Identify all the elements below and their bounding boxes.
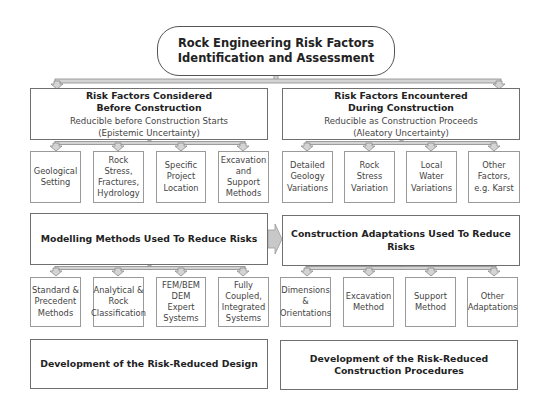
factor-label: Other Factors, e.g. Karst [473, 160, 515, 194]
title-line-1: Rock Engineering Risk Factors [178, 36, 374, 51]
method-label: Standard & Precedent Methods [31, 285, 80, 319]
before-construction-box: Risk Factors Considered Before Construct… [30, 88, 268, 140]
method-box: Fully Coupled, Integrated Systems [218, 277, 269, 327]
adaptation-label: Other Adaptations [467, 291, 519, 313]
factor-box: Local Water Variations [406, 151, 457, 203]
right-arrow-icon [268, 224, 282, 254]
method-box: Standard & Precedent Methods [30, 277, 81, 327]
factor-label: Rock Stress, Fractures, Hydrology [96, 155, 140, 200]
factor-box: Rock Stress Variation [344, 151, 395, 203]
adaptation-box: Excavation Method [343, 277, 394, 327]
factor-label: Local Water Variations [407, 160, 456, 194]
during-construction-title-1: Risk Factors Encountered [334, 90, 467, 103]
risk-reduced-design-title: Development of the Risk-Reduced Design [40, 358, 258, 371]
adaptation-label: Dimensions & Orientations [279, 285, 332, 319]
factor-box: Excavation and Support Methods [218, 151, 269, 203]
factor-box: Detailed Geology Variations [282, 151, 333, 203]
risk-reduced-procedures-box: Development of the Risk-Reduced Construc… [280, 340, 518, 390]
during-construction-sub-2: (Aleatory Uncertainty) [353, 127, 449, 139]
risk-reduced-procedures-title: Development of the Risk-Reduced Construc… [310, 353, 488, 378]
adaptation-box: Dimensions & Orientations [280, 277, 331, 327]
method-label: Analytical & Rock Classification [90, 285, 147, 319]
during-construction-sub-1: Reducible as Construction Proceeds [324, 115, 478, 127]
construction-adaptations-box: Construction Adaptations Used To Reduce … [282, 215, 520, 266]
before-construction-sub-2: (Epistemic Uncertainty) [98, 127, 200, 139]
modelling-methods-box: Modelling Methods Used To Reduce Risks [30, 213, 268, 265]
adaptation-box: Support Method [405, 277, 456, 327]
adaptation-label: Support Method [413, 291, 448, 313]
adaptation-label: Excavation Method [345, 291, 393, 313]
before-construction-title-2: Before Construction [96, 102, 201, 115]
factor-label: Specific Project Location [162, 160, 199, 194]
title-connector [55, 75, 501, 83]
factor-label: Rock Stress Variation [345, 160, 394, 194]
factor-label: Excavation and Support Methods [219, 155, 268, 200]
factor-label: Detailed Geology Variations [286, 160, 329, 194]
method-label: FEM/BEM DEM Expert Systems [161, 280, 201, 325]
method-box: Analytical & Rock Classification [93, 277, 144, 327]
construction-adaptations-title: Construction Adaptations Used To Reduce … [283, 228, 519, 253]
before-construction-sub-1: Reducible before Construction Starts [70, 115, 228, 127]
before-construction-title-1: Risk Factors Considered [86, 90, 212, 103]
title-box: Rock Engineering Risk Factors Identifica… [157, 26, 395, 76]
factor-box: Geological Setting [30, 151, 81, 203]
method-label: Fully Coupled, Integrated Systems [221, 280, 266, 325]
title-line-2: Identification and Assessment [178, 51, 374, 66]
factor-box: Other Factors, e.g. Karst [468, 151, 520, 203]
factor-label: Geological Setting [33, 166, 79, 188]
modelling-methods-title: Modelling Methods Used To Reduce Risks [41, 233, 258, 246]
during-construction-box: Risk Factors Encountered During Construc… [282, 88, 520, 140]
factor-box: Rock Stress, Fractures, Hydrology [93, 151, 144, 203]
during-construction-title-2: During Construction [348, 102, 454, 115]
factor-box: Specific Project Location [156, 151, 206, 203]
adaptation-box: Other Adaptations [467, 277, 518, 327]
method-box: FEM/BEM DEM Expert Systems [156, 277, 206, 327]
risk-reduced-design-box: Development of the Risk-Reduced Design [30, 339, 268, 389]
